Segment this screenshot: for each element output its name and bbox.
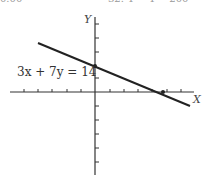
x-intercept-point (161, 90, 165, 94)
equation-label: 3x + 7y = 14 (17, 65, 96, 79)
x-axis-label: X (193, 93, 201, 106)
y-axis-label: Y (84, 13, 91, 26)
graph (0, 0, 204, 181)
